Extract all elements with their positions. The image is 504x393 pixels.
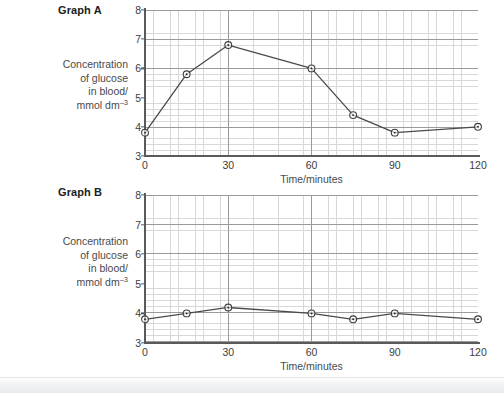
graph-a-y-axis-label: Concentration of glucose in blood/ mmol … bbox=[0, 58, 128, 112]
graph-b-series bbox=[145, 195, 478, 343]
y-tick-mark bbox=[141, 68, 146, 69]
graph-a-plot-wrap: 345678 0306090120 Time/minutes bbox=[145, 10, 478, 156]
data-point-marker bbox=[350, 316, 357, 323]
graph-a-series bbox=[145, 10, 478, 156]
page-bottom-band bbox=[0, 377, 504, 393]
x-tick-label: 120 bbox=[469, 346, 487, 358]
x-tick-label: 120 bbox=[469, 159, 487, 171]
data-point-marker bbox=[475, 123, 482, 130]
data-point-marker bbox=[225, 42, 232, 49]
y-axis-label-line-3: in blood/ bbox=[0, 85, 128, 99]
data-point-marker bbox=[475, 316, 482, 323]
x-tick-label: 60 bbox=[306, 159, 318, 171]
y-tick-mark bbox=[141, 313, 146, 314]
series-line bbox=[145, 45, 478, 133]
y-axis-label-line-2: of glucose bbox=[0, 249, 128, 263]
y-axis-label-exponent: –3 bbox=[120, 97, 128, 106]
page-root: Graph A Concentration of glucose in bloo… bbox=[0, 0, 504, 393]
y-axis-label-line-2: of glucose bbox=[0, 72, 128, 86]
data-point-marker bbox=[183, 310, 190, 317]
data-point-marker bbox=[350, 112, 357, 119]
x-tick-label: 90 bbox=[389, 346, 401, 358]
y-axis-label-line-4: mmol dm–3 bbox=[0, 276, 128, 290]
data-point-marker bbox=[183, 71, 190, 78]
y-tick-mark bbox=[141, 97, 146, 98]
y-tick-mark bbox=[141, 126, 146, 127]
y-tick-mark bbox=[141, 283, 146, 284]
x-tick-label: 0 bbox=[142, 346, 148, 358]
y-tick-mark bbox=[141, 194, 146, 195]
y-axis-label-line-1: Concentration bbox=[0, 235, 128, 249]
graph-a-title: Graph A bbox=[58, 4, 102, 16]
y-axis-label-unit: mmol dm bbox=[76, 99, 119, 111]
y-axis-label-line-3: in blood/ bbox=[0, 262, 128, 276]
data-point-marker bbox=[142, 129, 149, 136]
y-axis-label-line-4: mmol dm–3 bbox=[0, 99, 128, 113]
graph-a-figure: Graph A Concentration of glucose in bloo… bbox=[0, 0, 504, 182]
graph-b-title: Graph B bbox=[58, 186, 102, 198]
data-point-marker bbox=[308, 65, 315, 72]
y-tick-mark bbox=[141, 39, 146, 40]
y-tick-mark bbox=[141, 155, 146, 156]
y-tick-mark bbox=[141, 224, 146, 225]
y-tick-mark bbox=[141, 254, 146, 255]
y-axis-label-line-1: Concentration bbox=[0, 58, 128, 72]
y-axis-label-unit: mmol dm bbox=[76, 276, 119, 288]
y-tick-mark bbox=[141, 342, 146, 343]
data-point-marker bbox=[391, 129, 398, 136]
page-bottom-band-line bbox=[0, 377, 504, 378]
x-tick-label: 60 bbox=[306, 346, 318, 358]
x-tick-label: 0 bbox=[142, 159, 148, 171]
x-tick-label: 90 bbox=[389, 159, 401, 171]
graph-b-plot-wrap: 345678 0306090120 Time/minutes bbox=[145, 195, 478, 343]
data-point-marker bbox=[391, 310, 398, 317]
x-tick-label: 30 bbox=[222, 346, 234, 358]
data-point-marker bbox=[142, 316, 149, 323]
graph-b-x-axis-title: Time/minutes bbox=[280, 360, 343, 372]
y-axis-label-exponent: –3 bbox=[120, 274, 128, 283]
x-tick-label: 30 bbox=[222, 159, 234, 171]
graph-b-y-axis-label: Concentration of glucose in blood/ mmol … bbox=[0, 235, 128, 289]
y-tick-mark bbox=[141, 9, 146, 10]
graph-b-figure: Graph B Concentration of glucose in bloo… bbox=[0, 182, 504, 368]
data-point-marker bbox=[308, 310, 315, 317]
data-point-marker bbox=[225, 304, 232, 311]
